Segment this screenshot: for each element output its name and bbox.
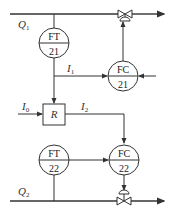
ratio-block: R	[43, 104, 65, 125]
ratio-control-diagram: Q1 FT 21 I1 FC 21 I0 R I2 FT 22	[0, 0, 175, 221]
fc22-controller: FC 22	[109, 145, 139, 175]
svg-text:21: 21	[49, 46, 59, 57]
svg-text:FT: FT	[48, 31, 60, 42]
svg-text:22: 22	[119, 163, 129, 174]
q1-label: Q1	[18, 18, 30, 32]
svg-text:FC: FC	[117, 64, 130, 75]
ft22-instrument: FT 22	[39, 145, 69, 175]
svg-text:22: 22	[49, 163, 59, 174]
control-valve-top-icon	[118, 10, 132, 21]
svg-text:FT: FT	[48, 148, 60, 159]
i1-label: I1	[66, 62, 75, 76]
ft21-instrument: FT 21	[39, 28, 69, 58]
i2-label: I2	[80, 100, 89, 114]
svg-text:21: 21	[118, 79, 128, 90]
i0-label: I0	[21, 100, 30, 114]
fc21-controller: FC 21	[108, 61, 138, 91]
svg-text:FC: FC	[118, 148, 131, 159]
q2-label: Q2	[18, 185, 30, 199]
signal-i2	[65, 114, 124, 143]
svg-text:R: R	[50, 108, 58, 120]
control-valve-bottom-icon	[117, 190, 131, 205]
